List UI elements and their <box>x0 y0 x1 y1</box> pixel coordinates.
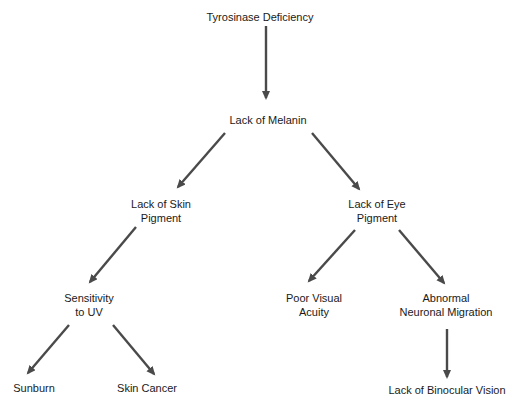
node-skin-pigment: Lack of Skin Pigment <box>131 197 191 225</box>
arrow-eye_pigment-to-neuronal <box>399 230 444 283</box>
node-skin-cancer: Skin Cancer <box>117 381 177 395</box>
arrow-skin_pigment-to-uv <box>90 227 136 282</box>
node-sunburn: Sunburn <box>13 381 55 395</box>
node-visual-acuity: Poor Visual Acuity <box>286 291 342 319</box>
node-uv: Sensitivity to UV <box>64 291 114 319</box>
node-neuronal: Abnormal Neuronal Migration <box>400 291 493 319</box>
node-eye-pigment: Lack of Eye Pigment <box>348 197 405 225</box>
arrow-uv-to-sunburn <box>28 325 69 373</box>
arrow-melanin-to-eye_pigment <box>312 133 359 189</box>
tyrosinase-flowchart: Tyrosinase DeficiencyLack of MelaninLack… <box>0 0 520 405</box>
node-binocular: Lack of Binocular Vision <box>388 383 505 397</box>
arrow-eye_pigment-to-visual_acuity <box>309 230 355 281</box>
arrow-uv-to-skin_cancer <box>113 325 154 374</box>
node-tyrosinase: Tyrosinase Deficiency <box>207 10 314 24</box>
edges-layer <box>0 0 520 405</box>
arrow-melanin-to-skin_pigment <box>178 133 225 187</box>
node-melanin: Lack of Melanin <box>229 113 306 127</box>
